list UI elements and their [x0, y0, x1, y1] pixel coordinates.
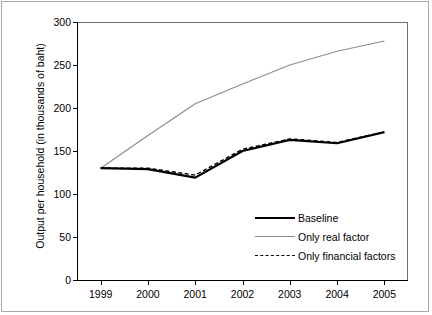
x-tick-mark	[337, 281, 338, 285]
y-tick-label: 50	[59, 231, 71, 243]
y-tick-label: 100	[53, 188, 71, 200]
legend-label: Baseline	[298, 212, 338, 224]
x-tick-mark	[290, 281, 291, 285]
legend-item: Baseline	[255, 208, 395, 227]
x-tick-mark	[101, 281, 102, 285]
x-tick-label: 2005	[373, 288, 396, 300]
series-line	[101, 41, 385, 168]
y-tick-label: 300	[53, 16, 71, 28]
legend-label: Only financial factors	[298, 250, 395, 262]
x-tick-label: 2001	[184, 288, 207, 300]
legend-label: Only real factor	[298, 231, 369, 243]
x-tick-mark	[384, 281, 385, 285]
x-tick-label: 2003	[278, 288, 301, 300]
x-tick-label: 1999	[89, 288, 112, 300]
x-tick-label: 2002	[231, 288, 254, 300]
x-tick-mark	[148, 281, 149, 285]
x-tick-mark	[195, 281, 196, 285]
legend-swatch	[255, 251, 295, 261]
y-axis-title: Output per household (in thousands of ba…	[34, 1, 46, 291]
legend-swatch	[255, 232, 295, 242]
x-tick-label: 2000	[136, 288, 159, 300]
chart-figure: Output per household (in thousands of ba…	[0, 0, 432, 315]
legend-swatch	[255, 213, 295, 223]
y-tick-label: 200	[53, 102, 71, 114]
y-tick-label: 150	[53, 145, 71, 157]
x-tick-label: 2004	[325, 288, 348, 300]
y-tick-label: 250	[53, 59, 71, 71]
legend-item: Only financial factors	[255, 246, 395, 265]
legend-item: Only real factor	[255, 227, 395, 246]
x-tick-mark	[243, 281, 244, 285]
chart-legend: BaselineOnly real factorOnly financial f…	[255, 208, 395, 265]
y-tick-label: 0	[65, 274, 71, 286]
